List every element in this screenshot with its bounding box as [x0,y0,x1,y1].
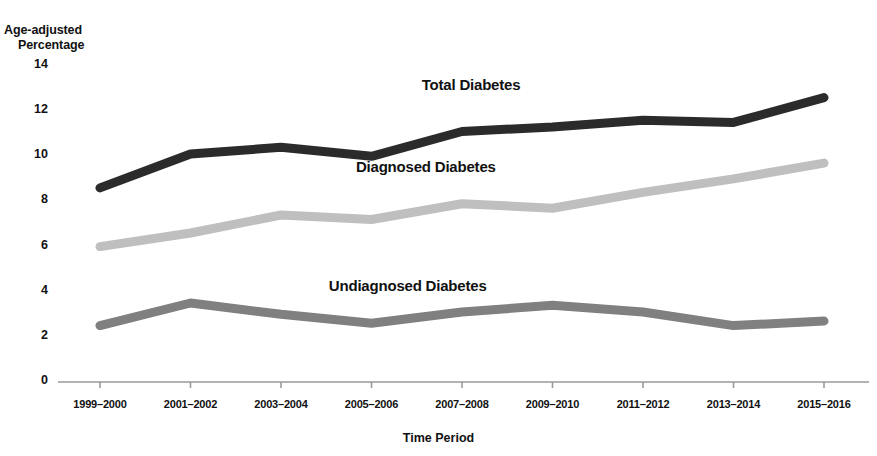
x-axis-tick-label: 1999–2000 [73,398,126,410]
x-axis-tick-label: 2011–2012 [617,398,670,410]
y-axis-tick-label: 10 [8,147,48,161]
series-label-total-diabetes: Total Diabetes [422,76,521,93]
y-axis-tick-label: 8 [8,192,48,206]
y-axis-tick-label: 14 [8,57,48,71]
y-axis-tick-label: 4 [8,283,48,297]
x-axis-tick-label: 2003–2004 [254,398,307,410]
x-axis-tick-label: 2013–2014 [707,398,760,410]
y-axis-tick-label: 6 [8,238,48,252]
series-label-diagnosed-diabetes: Diagnosed Diabetes [356,158,496,175]
x-axis-tick-label: 2001–2002 [164,398,217,410]
y-axis-tick-label: 12 [8,102,48,116]
x-axis-tick-label: 2005–2006 [345,398,398,410]
y-axis-tick-label: 2 [8,328,48,342]
x-axis-tick-label: 2009–2010 [526,398,579,410]
series-line-undiagnosed-diabetes [100,303,824,326]
x-axis-tick-label: 2007–2008 [435,398,488,410]
x-axis-tick-label: 2015–2016 [797,398,850,410]
series-line-diagnosed-diabetes [100,163,824,247]
chart-container: Age-adjusted Percentage 02468101214 1999… [0,0,877,456]
x-axis-title: Time Period [0,431,877,445]
series-label-undiagnosed-diabetes: Undiagnosed Diabetes [329,277,487,294]
y-axis-tick-label: 0 [8,373,48,387]
plot-area [0,0,877,456]
